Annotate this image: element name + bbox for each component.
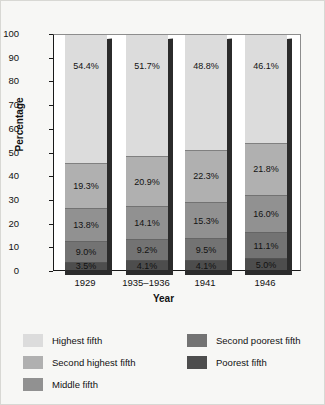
bar-segment-value-label: 9.0% [76, 247, 97, 257]
x-axis-tick-label: 1946 [225, 277, 305, 288]
bar-group: 46.1%21.8%16.0%11.1%5.0% [245, 35, 287, 270]
bar-segment[interactable]: 5.0% [245, 258, 287, 270]
bar-segment[interactable]: 13.8% [65, 208, 107, 240]
bar-segment[interactable]: 3.5% [65, 262, 107, 270]
legend-item[interactable]: Highest fifth [23, 329, 135, 351]
y-axis-tick-label: 40 [0, 171, 19, 181]
legend-column-right: Second poorest fifthPoorest fifth [187, 329, 301, 373]
bar-segment[interactable]: 15.3% [185, 202, 227, 238]
y-axis-tick-mark [49, 105, 53, 106]
y-axis-tick-mark [49, 176, 53, 177]
bar-segment[interactable]: 16.0% [245, 195, 287, 233]
bar-group: 48.8%22.3%15.3%9.5%4.1% [185, 35, 227, 270]
bar-segment[interactable]: 4.1% [185, 260, 227, 270]
legend-item[interactable]: Second highest fifth [23, 351, 135, 373]
bar-group: 51.7%20.9%14.1%9.2%4.1% [126, 35, 168, 270]
y-axis-tick-mark [49, 224, 53, 225]
bar-shadow [168, 38, 173, 274]
bar-segment-value-label: 54.4% [73, 61, 99, 71]
bar-segment[interactable]: 11.1% [245, 232, 287, 258]
y-axis-tick-label: 80 [0, 76, 19, 86]
bar-segment-value-label: 9.2% [137, 245, 158, 255]
stacked-bar[interactable]: 51.7%20.9%14.1%9.2%4.1% [126, 35, 168, 270]
legend-item-label: Second poorest fifth [216, 335, 301, 346]
chart-figure: Percentage 54.4%19.3%13.8%9.0%3.5%51.7%2… [0, 0, 325, 405]
bar-segment[interactable]: 4.1% [126, 260, 168, 270]
y-axis-tick-mark [49, 200, 53, 201]
bar-segment-value-label: 16.0% [253, 209, 279, 219]
bar-segment-value-label: 14.1% [134, 218, 160, 228]
bar-segment-value-label: 20.9% [134, 177, 160, 187]
bar-shadow-base [65, 270, 112, 275]
bar-segment[interactable]: 9.0% [65, 241, 107, 262]
bar-segment-value-label: 5.0% [256, 260, 277, 270]
bar-shadow-base [245, 270, 292, 275]
bar-segment[interactable]: 46.1% [245, 35, 287, 143]
bar-segment-value-label: 4.1% [137, 261, 158, 270]
legend-color-swatch [23, 378, 43, 391]
y-axis-tick-label: 100 [0, 29, 19, 39]
bar-segment[interactable]: 22.3% [185, 150, 227, 202]
legend-color-swatch [187, 334, 207, 347]
legend-color-swatch [23, 334, 43, 347]
legend-item-label: Poorest fifth [216, 357, 267, 368]
bar-segment-value-label: 19.3% [73, 181, 99, 191]
y-axis-tick-mark [49, 153, 53, 154]
legend-color-swatch [187, 356, 207, 369]
bar-shadow [287, 38, 292, 274]
stacked-bar[interactable]: 54.4%19.3%13.8%9.0%3.5% [65, 35, 107, 270]
y-axis-tick-label: 20 [0, 219, 19, 229]
bar-shadow [227, 38, 232, 274]
legend-item[interactable]: Second poorest fifth [187, 329, 301, 351]
bar-segment-value-label: 51.7% [134, 61, 160, 71]
y-axis-tick-mark [49, 34, 53, 35]
bar-segment[interactable]: 54.4% [65, 35, 107, 163]
bar-shadow [107, 38, 112, 274]
bar-segment[interactable]: 9.2% [126, 239, 168, 261]
bar-segment-value-label: 11.1% [254, 241, 279, 251]
y-axis-tick-label: 10 [0, 242, 19, 252]
bar-group: 54.4%19.3%13.8%9.0%3.5% [65, 35, 107, 270]
bar-segment-value-label: 3.5% [76, 262, 97, 270]
legend-column-left: Highest fifthSecond highest fifthMiddle … [23, 329, 135, 395]
y-axis-tick-mark [49, 129, 53, 130]
bar-segment-value-label: 48.8% [193, 61, 219, 71]
y-axis-tick-mark [49, 247, 53, 248]
stacked-bar[interactable]: 46.1%21.8%16.0%11.1%5.0% [245, 35, 287, 270]
bar-segment[interactable]: 48.8% [185, 35, 227, 150]
x-axis-label: Year [1, 293, 325, 304]
bar-segment[interactable]: 19.3% [65, 163, 107, 208]
legend-item-label: Middle fifth [52, 379, 98, 390]
y-axis-tick-label: 70 [0, 100, 19, 110]
legend-item[interactable]: Middle fifth [23, 373, 135, 395]
bar-segment-value-label: 15.3% [193, 216, 219, 226]
bar-segment-value-label: 4.1% [196, 261, 217, 270]
bar-segment-value-label: 46.1% [253, 61, 279, 71]
legend-item-label: Highest fifth [52, 335, 102, 346]
bar-segment[interactable]: 9.5% [185, 238, 227, 260]
y-axis-tick-label: 50 [0, 148, 19, 158]
bar-segment[interactable]: 21.8% [245, 143, 287, 194]
bar-segment-value-label: 13.8% [73, 220, 99, 230]
bar-segment-value-label: 22.3% [193, 171, 219, 181]
bar-segment[interactable]: 51.7% [126, 35, 168, 156]
bar-segment-value-label: 9.5% [196, 245, 217, 255]
bar-shadow-base [126, 270, 173, 275]
y-axis-tick-label: 0 [0, 266, 19, 276]
y-axis-tick-label: 60 [0, 124, 19, 134]
y-axis-tick-mark [49, 81, 53, 82]
bar-segment[interactable]: 20.9% [126, 156, 168, 205]
bar-segment-value-label: 21.8% [253, 164, 279, 174]
bar-segment[interactable]: 14.1% [126, 206, 168, 239]
y-axis-tick-mark [49, 271, 53, 272]
legend-item[interactable]: Poorest fifth [187, 351, 301, 373]
legend-item-label: Second highest fifth [52, 357, 135, 368]
bar-shadow-base [185, 270, 232, 275]
y-axis-tick-mark [49, 58, 53, 59]
stacked-bar[interactable]: 48.8%22.3%15.3%9.5%4.1% [185, 35, 227, 270]
legend-color-swatch [23, 356, 43, 369]
y-axis-tick-label: 30 [0, 195, 19, 205]
plot-area: 54.4%19.3%13.8%9.0%3.5%51.7%20.9%14.1%9.… [53, 34, 301, 271]
y-axis-tick-label: 90 [0, 53, 19, 63]
